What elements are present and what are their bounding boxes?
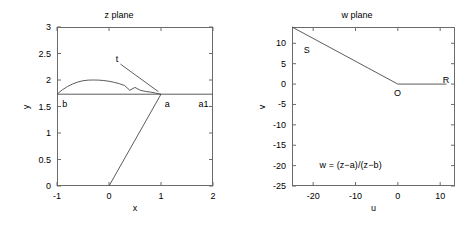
point-label-a: a bbox=[165, 99, 170, 109]
y-tick-label: 10 bbox=[252, 38, 286, 48]
y-tick-label: 0.5 bbox=[17, 155, 51, 165]
y-tick-label: 1 bbox=[17, 128, 51, 138]
y-tick-label: -20 bbox=[252, 161, 286, 171]
y-tick-label: 2.5 bbox=[17, 49, 51, 59]
x-tick-label: -1 bbox=[53, 191, 61, 201]
y-axis-label-w-plane: v bbox=[257, 104, 267, 109]
point-label-r: R bbox=[443, 75, 450, 85]
point-label-s: S bbox=[304, 45, 310, 55]
y-tick-label: 2 bbox=[17, 75, 51, 85]
x-tick-label: -20 bbox=[307, 191, 320, 201]
x-tick-label: 2 bbox=[210, 191, 215, 201]
y-tick-label: -25 bbox=[252, 181, 286, 191]
axes-frame-z-plane bbox=[57, 27, 213, 186]
plot-panel-w-plane: w plane 1050-5-10-15-20-25 -20-10010 SOR… bbox=[238, 0, 476, 228]
plot-title-w-plane: w plane bbox=[238, 10, 476, 20]
x-tick-label: 0 bbox=[395, 191, 400, 201]
y-tick-label: 5 bbox=[252, 59, 286, 69]
x-axis-label-z-plane: x bbox=[133, 203, 138, 213]
x-tick-label: -10 bbox=[349, 191, 362, 201]
figure-canvas: z plane 00.511.522.53 -1012 baa1t x y w … bbox=[0, 0, 476, 228]
y-axis-label-z-plane: y bbox=[21, 104, 31, 109]
y-tick-label: -10 bbox=[252, 120, 286, 130]
x-tick-label: 1 bbox=[158, 191, 163, 201]
plot-panel-z-plane: z plane 00.511.522.53 -1012 baa1t x y bbox=[0, 0, 238, 228]
x-tick-label: 0 bbox=[106, 191, 111, 201]
point-label-b: b bbox=[62, 99, 67, 109]
y-tick-label: -15 bbox=[252, 140, 286, 150]
y-tick-label: 3 bbox=[17, 22, 51, 32]
y-tick-label: 0 bbox=[252, 79, 286, 89]
y-tick-label: 0 bbox=[17, 181, 51, 191]
plot-title-z-plane: z plane bbox=[0, 10, 238, 20]
x-axis-label-w-plane: u bbox=[371, 203, 376, 213]
x-tick-label: 10 bbox=[435, 191, 445, 201]
equation-annotation-w-plane: w = (z−a)/(z−b) bbox=[320, 160, 382, 170]
point-label-o: O bbox=[394, 88, 401, 98]
point-label-a1: a1 bbox=[198, 99, 208, 109]
point-label-t: t bbox=[116, 54, 119, 64]
